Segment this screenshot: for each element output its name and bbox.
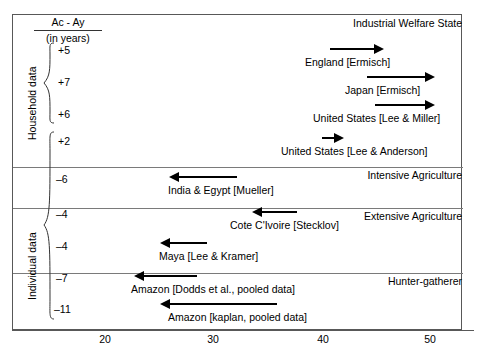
value-label-maya: –4 [56,240,68,252]
divider-intensive-extensive [13,208,463,209]
value-label-us-miller: +6 [58,108,70,120]
arrow-us-miller [373,98,439,112]
regime-label-hunter: Hunter-gatherer [388,275,462,287]
group-label-individual: Individual data [26,232,38,300]
value-label-england: +5 [58,44,70,56]
value-label-cote: –4 [56,208,68,220]
regime-label-extensive: Extensive Agriculture [364,210,462,222]
arrow-india-egypt [165,170,239,184]
arrow-maya [156,236,210,250]
regime-label-intensive: Intensive Agriculture [367,169,462,181]
arrow-cote [248,205,300,219]
series-label-us-anderson: United States [Lee & Anderson] [281,145,428,157]
brace-household [43,42,55,124]
x-tick-30: 30 [207,333,219,345]
chart-figure: Ac - Ay (in years) Household data Indivi… [0,0,480,358]
brace-individual [43,131,55,320]
group-label-household: Household data [26,66,38,140]
series-label-england: England [Ermisch] [305,56,390,68]
x-tick-40: 40 [317,333,329,345]
value-label-amazon-kaplan: –11 [54,303,71,315]
series-label-amazon-dodds: Amazon [Dodds et al., pooled data] [131,283,295,295]
divider-industrial-intensive [13,167,463,168]
series-label-amazon-kaplan: Amazon [kaplan, pooled data] [168,311,307,323]
series-label-cote: Cote C'Ivoire [Stecklov] [230,219,339,231]
x-axis-line [12,330,474,331]
x-tick-20: 20 [99,333,111,345]
arrow-us-anderson [320,131,348,145]
series-label-us-miller: United States [Lee & Miller] [313,112,440,124]
arrow-amazon-dodds [130,269,200,283]
regime-label-industrial: Industrial Welfare State [353,17,462,29]
arrow-japan [365,70,439,84]
value-label-japan: +7 [58,76,70,88]
series-label-maya: Maya [Lee & Kramer] [159,250,258,262]
arrow-amazon-kaplan [156,297,280,311]
value-label-india-egypt: –6 [56,173,68,185]
divider-extensive-hunter [13,273,463,274]
column-header: Ac - Ay (in years) [34,16,102,45]
series-label-india-egypt: India & Egypt [Mueller] [168,184,274,196]
series-label-japan: Japan [Ermisch] [345,84,420,96]
arrow-england [328,42,388,56]
x-tick-50: 50 [424,333,436,345]
value-label-us-anderson: +2 [58,135,70,147]
value-label-amazon-dodds: –7 [56,272,68,284]
column-header-numerator: Ac - Ay [34,16,102,31]
